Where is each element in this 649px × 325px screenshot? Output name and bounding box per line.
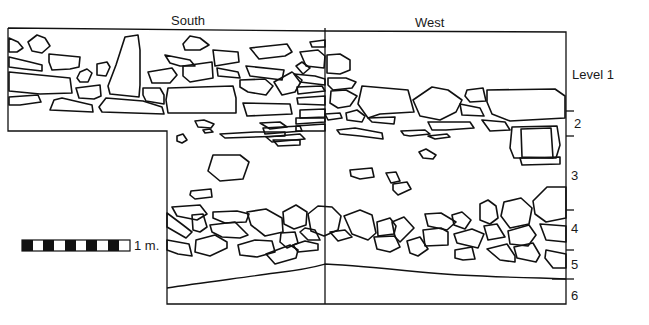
level-2-label: 2 — [574, 117, 581, 130]
south-face-label: South — [171, 14, 205, 27]
stones-west-upper — [325, 54, 565, 124]
level-3-label: 3 — [571, 169, 578, 182]
stones-south-level2 — [177, 118, 325, 146]
scale-bar — [22, 240, 130, 251]
stratum-boundaries — [167, 264, 566, 288]
stones-west-level4 — [344, 187, 566, 268]
west-face-label: West — [415, 16, 444, 29]
section-drawing — [0, 0, 649, 325]
level-1-label: Level 1 — [572, 68, 614, 81]
level-6-label: 6 — [571, 289, 578, 302]
stones-level3 — [190, 155, 411, 199]
section-frame — [8, 28, 566, 304]
level-4-label: 4 — [571, 222, 578, 235]
stones-south-level4 — [167, 205, 352, 264]
stones-west-level2 — [337, 120, 560, 165]
scale-bar-label: 1 m. — [134, 239, 159, 252]
stones-south-upper — [9, 35, 325, 118]
level-5-label: 5 — [571, 258, 578, 271]
